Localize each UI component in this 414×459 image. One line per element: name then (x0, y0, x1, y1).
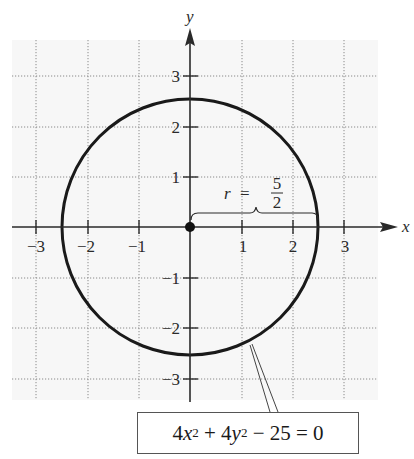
radius-denominator: 2 (273, 193, 282, 212)
y-tick-label: 2 (172, 118, 181, 137)
circle-graph: −3 −2 −1 1 2 3 3 2 1 −1 −2 −3 y x r = 5 … (0, 0, 414, 459)
radius-r: r (224, 184, 231, 203)
eq-var-y: y (232, 421, 241, 446)
y-tick-label: −3 (162, 370, 180, 389)
x-axis-label: x (401, 217, 410, 236)
y-axis-label: y (184, 7, 194, 26)
eq-var-x: x (183, 421, 192, 446)
x-tick-label: 1 (239, 237, 248, 256)
x-tick-label: −1 (128, 237, 146, 256)
x-tick-label: −3 (27, 237, 45, 256)
radius-numerator: 5 (273, 174, 282, 193)
eq-coef1: 4 (172, 421, 183, 446)
center-point (185, 222, 195, 232)
x-tick-label: −2 (77, 237, 95, 256)
eq-coef2: 4 (221, 421, 232, 446)
y-tick-label: −2 (162, 319, 180, 338)
grid-background (12, 40, 378, 400)
x-tick-label: 2 (289, 237, 298, 256)
eq-rest: − 25 = 0 (247, 421, 323, 446)
eq-plus: + (199, 421, 221, 446)
equation-box: 4x2 + 4y2 − 25 = 0 (137, 412, 359, 454)
y-tick-label: 3 (172, 67, 181, 86)
y-tick-label: −1 (162, 269, 180, 288)
y-tick-label: 1 (172, 168, 181, 187)
radius-equals: = (240, 184, 250, 203)
x-tick-label: 3 (341, 237, 350, 256)
